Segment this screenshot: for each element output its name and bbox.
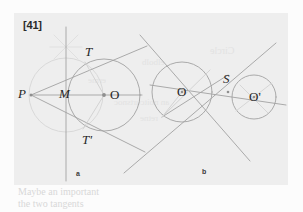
construction-chord-large xyxy=(162,75,228,117)
internal-tangent-1 xyxy=(140,35,250,161)
point-dot-o-a xyxy=(102,93,106,97)
figure-panel: Circle elbolb an noitcurtsnoc retne erme… xyxy=(14,13,288,185)
radius-o-t xyxy=(85,62,104,95)
label-point-o-a: O xyxy=(110,87,119,103)
label-point-t: T xyxy=(85,44,92,60)
diagram-b-art xyxy=(124,35,286,173)
bleed-line-lower-2: the two tangents xyxy=(18,198,84,209)
subfigure-label-b: b xyxy=(202,168,206,175)
radius-o-tprime xyxy=(83,95,104,129)
point-dot-p xyxy=(30,94,33,97)
subfigure-label-a: a xyxy=(76,170,80,177)
scanned-page: Circle Is Maybe an important the two tan… xyxy=(0,0,303,212)
bleed-line-lower-1: Maybe an important xyxy=(18,186,99,197)
internal-tangent-2 xyxy=(124,43,276,173)
label-point-p: P xyxy=(18,86,26,102)
label-point-m: M xyxy=(59,86,70,102)
label-point-o-b: O xyxy=(177,84,186,100)
label-point-o-prime: O' xyxy=(249,89,261,105)
figure-line-art xyxy=(14,13,288,185)
label-point-s: S xyxy=(223,71,230,87)
point-dot-s xyxy=(227,91,230,94)
label-point-t-prime: T' xyxy=(82,132,92,148)
